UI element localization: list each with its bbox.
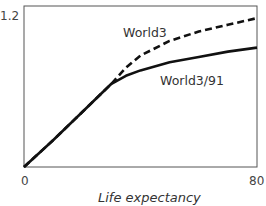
series-label-world3: World3 — [123, 25, 167, 40]
life-expectancy-chart: 1.2 0 80 World3 World3/91 Life expectanc… — [0, 0, 266, 206]
x-axis-title: Life expectancy — [98, 190, 201, 205]
y-tick-label-1-2: 1.2 — [0, 9, 19, 23]
chart-canvas: 1.2 0 80 World3 World3/91 Life expectanc… — [0, 0, 266, 206]
series-line-world3-91 — [24, 48, 257, 167]
series-label-world3-91: World3/91 — [160, 73, 224, 88]
x-tick-label-80: 80 — [249, 174, 264, 188]
x-tick-label-0: 0 — [21, 174, 29, 188]
series-line-world3 — [24, 18, 257, 167]
